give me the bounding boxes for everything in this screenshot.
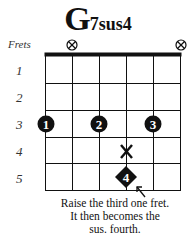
svg-text:3: 3 [150, 117, 157, 132]
svg-text:2: 2 [96, 117, 103, 132]
muted-string-6-icon [176, 40, 186, 50]
caption-line-2: It then becomes the [40, 210, 190, 223]
frets [45, 84, 181, 191]
nut [45, 53, 182, 57]
finger-1-dot: 1 [38, 116, 55, 133]
svg-text:4: 4 [123, 170, 130, 185]
caption-line-3: sus. fourth. [40, 223, 190, 236]
svg-text:1: 1 [43, 117, 50, 132]
finger-4-diamond: 4 [115, 166, 137, 188]
muted-string-1-icon [67, 40, 77, 50]
finger-3-dot: 3 [145, 116, 162, 133]
caption: Raise the third one fret. It then become… [40, 197, 190, 236]
finger-2-dot: 2 [91, 116, 108, 133]
arrow-icon [137, 187, 145, 197]
caption-line-1: Raise the third one fret. [40, 197, 190, 210]
